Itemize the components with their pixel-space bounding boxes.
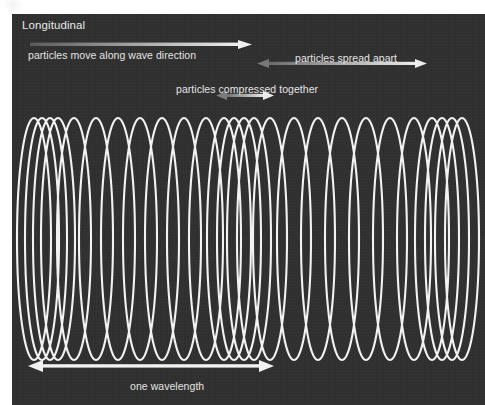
arrow-one-wavelength [28, 360, 274, 372]
arrow-wave-direction [30, 40, 252, 49]
coil-loop [145, 118, 179, 360]
figure-title: Longitudinal [22, 19, 85, 31]
arrow-wave-direction-svg [30, 40, 252, 49]
arrow-one-wavelength-svg [28, 360, 274, 372]
label-wave-direction: particles move along wave direction [28, 49, 196, 61]
illustration-panel: Longitudinal particles move along wave d… [12, 14, 485, 405]
label-compressed-together: particles compressed together [176, 83, 318, 95]
coil-loop [123, 118, 157, 360]
coil-loop [79, 118, 113, 360]
label-one-wavelength: one wavelength [130, 380, 204, 392]
longitudinal-wave-diagram: Longitudinal particles move along wave d… [0, 0, 485, 405]
wave-coil [12, 14, 485, 405]
label-spread-apart: particles spread apart [295, 52, 397, 64]
coil-loop [227, 118, 261, 360]
coil-loop [435, 118, 469, 360]
image-artifact-smudge [6, 0, 20, 10]
coil-loop [167, 118, 201, 360]
wave-coil-svg [12, 14, 485, 405]
coil-loop [445, 118, 479, 360]
coil-loop [101, 118, 135, 360]
